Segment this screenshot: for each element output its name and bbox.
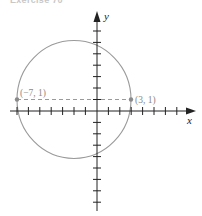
x-axis — [10, 107, 190, 115]
point-left-label: (−7, 1) — [20, 88, 46, 99]
circle-plot: (−7, 1) (3, 1) x y — [0, 0, 202, 216]
y-axis-arrow-icon — [94, 11, 101, 22]
y-axis — [93, 20, 101, 211]
x-axis-label: x — [186, 114, 192, 126]
point-right-label: (3, 1) — [135, 95, 156, 106]
point-right — [129, 97, 133, 101]
y-axis-label: y — [103, 10, 109, 22]
point-left — [15, 97, 19, 101]
